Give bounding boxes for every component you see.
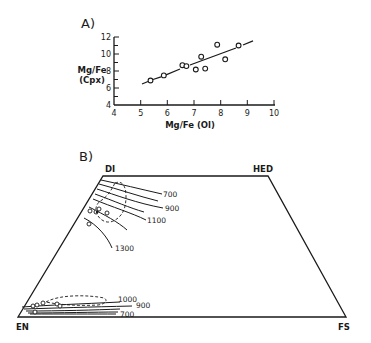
data-point <box>35 303 39 307</box>
y-tick-label: 6 <box>106 84 111 93</box>
lower-isotherm-labels: 1000 900 700 <box>118 295 151 319</box>
isotherm-800 <box>26 309 120 311</box>
corner-label-di: DI <box>105 164 115 174</box>
panel-a: A) 4 6 8 10 12 <box>78 16 280 130</box>
y-tick-label: 10 <box>101 50 111 59</box>
data-point <box>88 209 92 213</box>
isotherm-label: 1300 <box>115 244 134 253</box>
x-ticks <box>141 100 274 105</box>
data-point <box>87 222 91 226</box>
x-tick-label: 7 <box>191 109 196 118</box>
x-tick-labels: 4 5 6 7 8 9 10 <box>111 109 279 118</box>
y-axis-label-line2: (Cpx) <box>79 75 105 85</box>
data-point-filled <box>96 211 98 213</box>
data-point <box>58 304 62 308</box>
isotherm-label: 1000 <box>118 295 137 304</box>
data-point <box>148 78 153 83</box>
pyroxene-quadrilateral <box>18 176 346 317</box>
panel-b: B) DI HED EN FS 700 900 1100 1300 <box>16 149 350 332</box>
data-point <box>203 66 208 71</box>
data-point <box>236 43 241 48</box>
data-point <box>41 301 45 305</box>
data-point <box>161 73 166 78</box>
isotherm-label: 700 <box>120 310 135 319</box>
y-ticks <box>114 37 119 97</box>
data-point <box>31 304 35 308</box>
isotherm-label: 900 <box>136 301 151 310</box>
y-axis-label-line1: Mg/Fe <box>78 65 107 75</box>
x-tick-label: 5 <box>138 109 143 118</box>
data-point <box>33 310 37 314</box>
x-tick-label: 10 <box>269 109 279 118</box>
corner-label-fs: FS <box>338 322 350 332</box>
isotherm-label: 700 <box>163 190 178 199</box>
data-point <box>223 57 228 62</box>
isotherm-label: 1100 <box>147 216 166 225</box>
corner-label-en: EN <box>16 322 29 332</box>
panel-a-label: A) <box>81 16 95 31</box>
data-points <box>148 42 241 83</box>
upper-isotherm-labels: 700 900 1100 1300 <box>115 190 180 253</box>
data-point <box>193 67 198 72</box>
data-point <box>199 54 204 59</box>
lower-data-points <box>31 301 62 314</box>
y-tick-label: 4 <box>106 101 111 110</box>
y-tick-label: 8 <box>106 67 111 76</box>
x-tick-label: 4 <box>111 109 116 118</box>
x-tick-label: 6 <box>165 109 170 118</box>
x-tick-label: 9 <box>245 109 250 118</box>
x-axis-label: Mg/Fe (Ol) <box>165 120 215 130</box>
figure: A) 4 6 8 10 12 <box>0 0 371 343</box>
corner-label-hed: HED <box>253 164 273 174</box>
isotherm-700 <box>28 312 118 313</box>
y-tick-label: 12 <box>101 33 111 42</box>
isotherm-label: 900 <box>165 204 180 213</box>
panel-b-label: B) <box>79 149 93 164</box>
isotherm-900 <box>24 306 132 309</box>
data-point <box>105 211 109 215</box>
x-tick-label: 8 <box>218 109 223 118</box>
data-point <box>215 42 220 47</box>
data-point <box>184 64 189 69</box>
